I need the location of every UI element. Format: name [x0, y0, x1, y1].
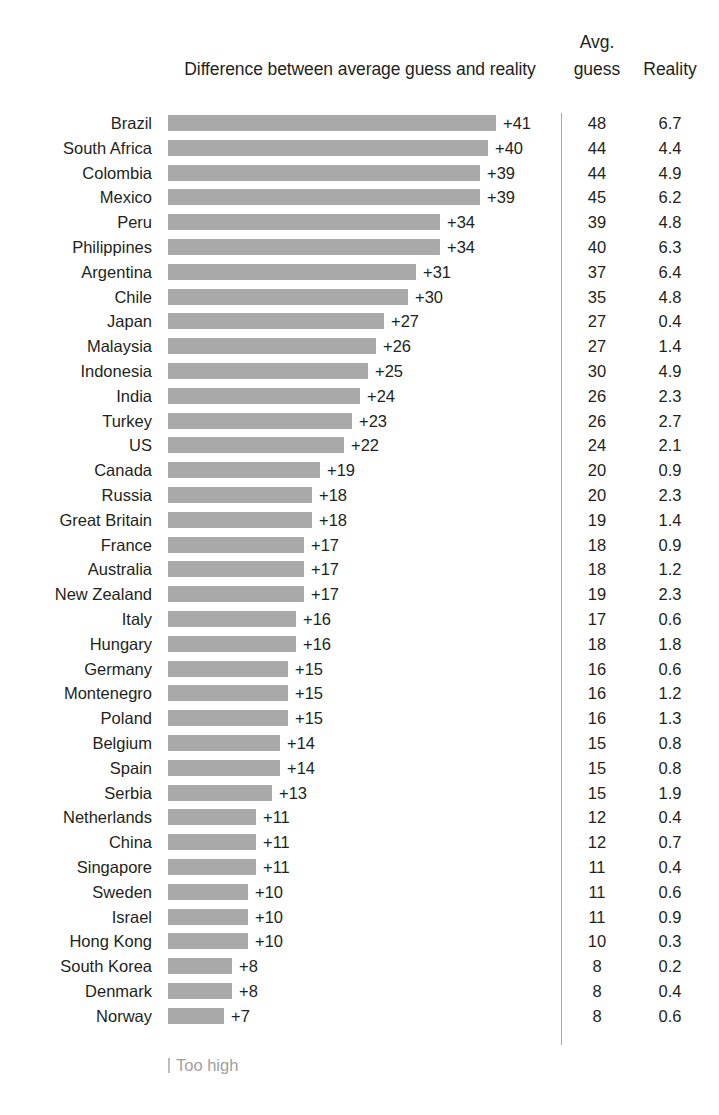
- table-row: Peru+34394.8: [0, 211, 719, 236]
- bar-value-label: +25: [375, 362, 403, 380]
- bar-value-label: +14: [287, 759, 315, 777]
- cell-avg-guess: 10: [566, 932, 628, 950]
- cell-reality: 4.8: [630, 213, 710, 231]
- cell-avg-guess: 20: [566, 486, 628, 504]
- cell-avg-guess: 11: [566, 908, 628, 926]
- table-row: Poland+15161.3: [0, 707, 719, 732]
- cell-avg-guess: 18: [566, 536, 628, 554]
- cell-reality: 1.4: [630, 511, 710, 529]
- cell-reality: 1.2: [630, 684, 710, 702]
- bar-difference: [168, 809, 256, 825]
- table-row: Turkey+23262.7: [0, 410, 719, 435]
- bar-value-label: +15: [295, 709, 323, 727]
- table-row: China+11120.7: [0, 831, 719, 856]
- bar-value-label: +16: [303, 635, 331, 653]
- row-country-label: South Africa: [0, 139, 152, 157]
- table-row: Hong Kong+10100.3: [0, 930, 719, 955]
- cell-reality: 0.8: [630, 759, 710, 777]
- bar-value-label: +10: [255, 908, 283, 926]
- cell-reality: 0.6: [630, 610, 710, 628]
- row-country-label: Mexico: [0, 188, 152, 206]
- cell-reality: 4.8: [630, 288, 710, 306]
- cell-reality: 6.4: [630, 263, 710, 281]
- cell-avg-guess: 11: [566, 883, 628, 901]
- cell-reality: 0.8: [630, 734, 710, 752]
- bar-value-label: +18: [319, 486, 347, 504]
- row-country-label: Indonesia: [0, 362, 152, 380]
- cell-avg-guess: 12: [566, 833, 628, 851]
- row-country-label: Norway: [0, 1007, 152, 1025]
- bar-value-label: +15: [295, 684, 323, 702]
- cell-reality: 0.9: [630, 461, 710, 479]
- cell-avg-guess: 24: [566, 436, 628, 454]
- cell-reality: 1.2: [630, 560, 710, 578]
- row-country-label: Poland: [0, 709, 152, 727]
- cell-avg-guess: 44: [566, 164, 628, 182]
- chart-rows: Brazil+41486.7South Africa+40444.4Colomb…: [0, 112, 719, 1029]
- cell-reality: 6.2: [630, 188, 710, 206]
- table-row: Brazil+41486.7: [0, 112, 719, 137]
- bar-difference: [168, 586, 304, 602]
- cell-avg-guess: 16: [566, 660, 628, 678]
- row-country-label: Philippines: [0, 238, 152, 256]
- bar-value-label: +7: [231, 1007, 250, 1025]
- cell-reality: 4.4: [630, 139, 710, 157]
- bar-difference: [168, 115, 496, 131]
- row-country-label: South Korea: [0, 957, 152, 975]
- bar-value-label: +18: [319, 511, 347, 529]
- table-row: Montenegro+15161.2: [0, 682, 719, 707]
- cell-avg-guess: 26: [566, 387, 628, 405]
- bar-value-label: +31: [423, 263, 451, 281]
- row-country-label: Germany: [0, 660, 152, 678]
- cell-avg-guess: 17: [566, 610, 628, 628]
- bar-value-label: +19: [327, 461, 355, 479]
- row-country-label: Canada: [0, 461, 152, 479]
- table-row: New Zealand+17192.3: [0, 583, 719, 608]
- cell-avg-guess: 39: [566, 213, 628, 231]
- chart-header: Difference between average guess and rea…: [0, 0, 719, 105]
- table-row: Sweden+10110.6: [0, 881, 719, 906]
- row-country-label: Chile: [0, 288, 152, 306]
- bar-value-label: +11: [263, 833, 290, 851]
- bar-value-label: +23: [359, 412, 387, 430]
- bar-difference: [168, 313, 384, 329]
- bar-difference: [168, 289, 408, 305]
- bar-value-label: +39: [487, 164, 515, 182]
- row-country-label: Singapore: [0, 858, 152, 876]
- table-row: Italy+16170.6: [0, 608, 719, 633]
- row-country-label: Spain: [0, 759, 152, 777]
- bar-difference: [168, 958, 232, 974]
- cell-reality: 1.8: [630, 635, 710, 653]
- cell-reality: 0.4: [630, 808, 710, 826]
- bar-value-label: +24: [367, 387, 395, 405]
- bar-value-label: +15: [295, 660, 323, 678]
- table-row: Indonesia+25304.9: [0, 360, 719, 385]
- table-row: Colombia+39444.9: [0, 162, 719, 187]
- bar-value-label: +27: [391, 312, 419, 330]
- row-country-label: Peru: [0, 213, 152, 231]
- cell-reality: 0.4: [630, 312, 710, 330]
- table-row: Argentina+31376.4: [0, 261, 719, 286]
- row-country-label: France: [0, 536, 152, 554]
- bar-difference: [168, 462, 320, 478]
- legend-label: Too high: [176, 1056, 238, 1074]
- bar-value-label: +17: [311, 536, 339, 554]
- bar-difference: [168, 561, 304, 577]
- cell-reality: 0.6: [630, 1007, 710, 1025]
- cell-reality: 4.9: [630, 164, 710, 182]
- cell-avg-guess: 18: [566, 635, 628, 653]
- table-row: US+22242.1: [0, 434, 719, 459]
- cell-avg-guess: 37: [566, 263, 628, 281]
- row-country-label: Italy: [0, 610, 152, 628]
- table-row: Serbia+13151.9: [0, 782, 719, 807]
- column-header-avg-line1: Avg.: [566, 32, 628, 53]
- cell-avg-guess: 27: [566, 312, 628, 330]
- bar-value-label: +40: [495, 139, 523, 157]
- table-row: Denmark+880.4: [0, 980, 719, 1005]
- bar-difference: [168, 338, 376, 354]
- bar-value-label: +11: [263, 858, 290, 876]
- cell-avg-guess: 8: [566, 1007, 628, 1025]
- cell-reality: 2.3: [630, 486, 710, 504]
- bar-difference: [168, 611, 296, 627]
- cell-avg-guess: 19: [566, 585, 628, 603]
